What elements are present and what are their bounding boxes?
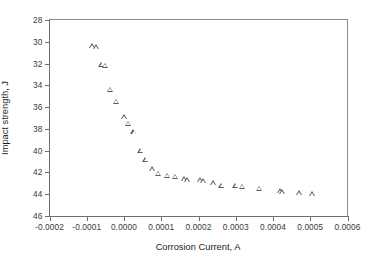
scatter-marker [107, 81, 113, 86]
x-axis-tick-label: 0.0005 [297, 222, 323, 232]
y-axis-tick-label: 46 [33, 211, 42, 221]
y-axis-tick-label: 32 [33, 59, 42, 69]
scatter-marker [296, 185, 302, 190]
x-axis-tick-label: 0.0003 [223, 222, 249, 232]
scatter-marker [102, 57, 108, 62]
scatter-marker [113, 93, 119, 98]
y-axis-title: Impact strength, J [0, 81, 10, 155]
scatter-marker [210, 175, 216, 180]
x-axis-tick [161, 216, 162, 221]
scatter-marker [219, 177, 225, 182]
y-axis-tick-label: 30 [33, 37, 42, 47]
scatter-marker [164, 167, 170, 172]
y-axis-tick [45, 64, 50, 65]
x-axis-tick [50, 216, 51, 221]
scatter-marker [233, 177, 239, 182]
y-axis-tick-label: 40 [33, 146, 42, 156]
y-axis-tick-label: 28 [33, 15, 42, 25]
plot-area: 28303234363840424446-0.0002-0.00010.0000… [49, 19, 349, 217]
x-axis-tick-label: -0.0001 [72, 222, 101, 232]
y-axis-tick-label: 42 [33, 167, 42, 177]
scatter-marker [184, 172, 190, 177]
scatter-marker [279, 184, 285, 189]
scatter-marker [131, 124, 137, 129]
scatter-marker [155, 165, 161, 170]
y-axis-tick-label: 34 [33, 80, 42, 90]
scatter-marker [200, 173, 206, 178]
x-axis-tick-label: 0.0002 [186, 222, 212, 232]
x-axis-tick [236, 216, 237, 221]
scatter-marker [256, 180, 262, 185]
y-axis-tick [45, 20, 50, 21]
x-axis-tick [273, 216, 274, 221]
scatter-marker [138, 142, 144, 147]
x-axis-title: Corrosion Current, A [156, 242, 241, 252]
scatter-marker [121, 108, 127, 113]
y-axis-tick [45, 42, 50, 43]
scatter-marker [143, 151, 149, 156]
scatter-marker [93, 39, 99, 44]
y-axis-tick [45, 107, 50, 108]
x-axis-tick [199, 216, 200, 221]
scatter-marker [125, 115, 131, 120]
scatter-marker [172, 168, 178, 173]
y-axis-tick [45, 151, 50, 152]
scatter-marker [239, 178, 245, 183]
x-axis-tick-label: 0.0000 [111, 222, 137, 232]
y-axis-tick-label: 38 [33, 124, 42, 134]
scatter-data-layer [50, 20, 348, 216]
chart-figure: 28303234363840424446-0.0002-0.00010.0000… [0, 0, 374, 268]
y-axis-tick-label: 36 [33, 102, 42, 112]
y-axis-tick [45, 172, 50, 173]
scatter-marker [309, 186, 315, 191]
x-axis-tick [87, 216, 88, 221]
x-axis-tick [124, 216, 125, 221]
x-axis-tick [310, 216, 311, 221]
y-axis-tick [45, 194, 50, 195]
x-axis-tick-label: 0.0004 [260, 222, 286, 232]
y-axis-tick [45, 85, 50, 86]
x-axis-tick-label: -0.0002 [35, 222, 64, 232]
y-axis-tick-label: 44 [33, 189, 42, 199]
x-axis-tick [348, 216, 349, 221]
y-axis-tick [45, 129, 50, 130]
x-axis-tick-label: 0.0001 [148, 222, 174, 232]
x-axis-tick-label: 0.0006 [335, 222, 361, 232]
scatter-marker [149, 161, 155, 166]
